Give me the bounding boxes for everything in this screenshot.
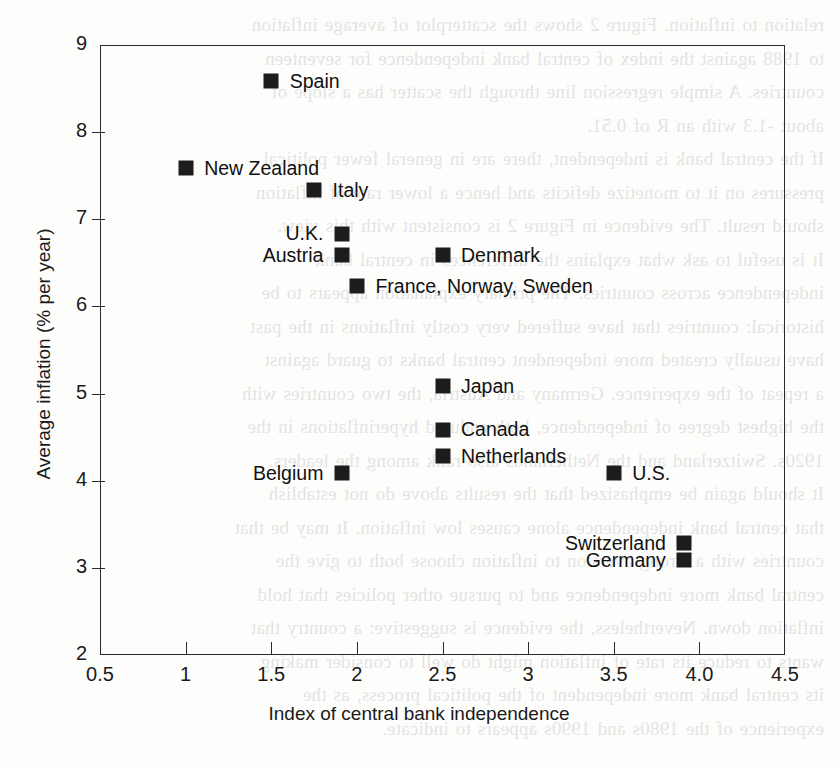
y-axis-tick bbox=[92, 306, 105, 307]
x-axis-label: Index of central bank independence bbox=[0, 703, 838, 725]
data-point-marker bbox=[334, 466, 349, 481]
data-point-marker bbox=[435, 422, 450, 437]
data-point-marker bbox=[349, 278, 364, 293]
data-point-label: U.S. bbox=[632, 463, 670, 483]
data-point-label: Germany bbox=[586, 551, 666, 571]
data-point-label: Italy bbox=[333, 180, 369, 200]
chart-figure: relation to inflation. Figure 2 shows th… bbox=[0, 0, 838, 769]
x-axis-tick bbox=[186, 642, 187, 655]
x-axis-tick bbox=[443, 642, 444, 655]
y-axis-tick-label: 8 bbox=[45, 119, 87, 142]
y-axis-tick bbox=[92, 132, 105, 133]
data-point-marker bbox=[435, 379, 450, 394]
x-axis-tick-label: 2 bbox=[322, 663, 392, 686]
y-axis-tick bbox=[92, 568, 105, 569]
x-axis-tick-label: 3 bbox=[493, 663, 563, 686]
x-axis-tick bbox=[699, 642, 700, 655]
data-point-label: Netherlands bbox=[461, 446, 566, 466]
data-point-label: Denmark bbox=[461, 246, 540, 266]
data-point-label: Belgium bbox=[253, 463, 323, 483]
y-axis-tick bbox=[92, 219, 105, 220]
x-axis-tick-label: 0.5 bbox=[65, 663, 135, 686]
x-axis-tick bbox=[271, 642, 272, 655]
y-axis-tick-label: 3 bbox=[45, 555, 87, 578]
x-axis-tick bbox=[614, 642, 615, 655]
data-point-marker bbox=[435, 248, 450, 263]
x-axis-tick-label: 1 bbox=[151, 663, 221, 686]
data-point-label: France, Norway, Sweden bbox=[375, 276, 592, 296]
data-point-marker bbox=[606, 466, 621, 481]
data-point-label: Austria bbox=[263, 246, 324, 266]
data-point-marker bbox=[307, 183, 322, 198]
x-axis-tick-label: 2.5 bbox=[408, 663, 478, 686]
data-point-marker bbox=[435, 448, 450, 463]
data-point-marker bbox=[677, 553, 692, 568]
x-axis-tick-label: 4.5 bbox=[750, 663, 820, 686]
x-axis-tick-label: 4.0 bbox=[664, 663, 734, 686]
x-axis-tick-label: 3.5 bbox=[579, 663, 649, 686]
data-point-marker bbox=[677, 535, 692, 550]
data-point-label: New Zealand bbox=[204, 158, 319, 178]
y-axis-label: Average inflation (% per year) bbox=[33, 189, 55, 519]
y-axis-tick bbox=[92, 394, 105, 395]
data-point-marker bbox=[334, 248, 349, 263]
x-axis-tick-label: 1.5 bbox=[236, 663, 306, 686]
y-axis-tick-label: 9 bbox=[45, 32, 87, 55]
data-point-label: Japan bbox=[461, 376, 514, 396]
data-point-marker bbox=[264, 74, 279, 89]
data-point-label: U.K. bbox=[285, 224, 323, 244]
data-point-label: Canada bbox=[461, 420, 529, 440]
y-axis-tick-label: 2 bbox=[45, 642, 87, 665]
bleed-through-line: relation to inflation. Figure 2 shows th… bbox=[14, 8, 824, 42]
data-point-label: Spain bbox=[290, 71, 340, 91]
x-axis-tick bbox=[357, 642, 358, 655]
y-axis-tick bbox=[92, 481, 105, 482]
data-point-marker bbox=[334, 226, 349, 241]
x-axis-tick bbox=[528, 642, 529, 655]
data-point-marker bbox=[178, 161, 193, 176]
